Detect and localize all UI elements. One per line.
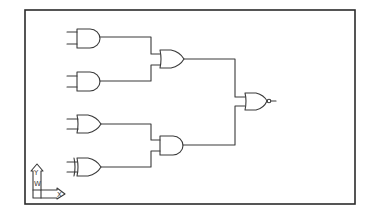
ucs-y-label: Y xyxy=(33,169,39,177)
circuit-diagram: Y W X xyxy=(0,0,375,216)
ucs-w-label: W xyxy=(34,180,41,188)
ucs-x-label: X xyxy=(57,191,62,199)
